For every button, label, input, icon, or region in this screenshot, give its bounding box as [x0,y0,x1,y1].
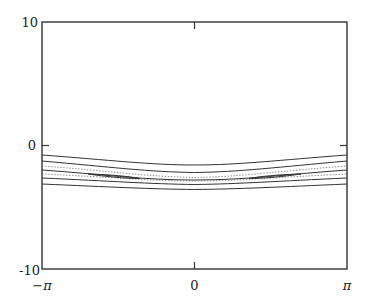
curve-2 [42,161,347,173]
x-tick-label-mid: 0 [190,278,198,293]
y-tick-label-bottom: -10 [19,263,40,278]
curves-group [42,155,347,190]
phase-portrait-chart: 10 0 -10 −π 0 π [0,0,367,303]
separatrix-dotted-upper [42,166,347,178]
curve-3 [42,170,347,180]
y-tick-label-top: 10 [21,15,38,30]
x-tick-label-right: π [342,278,352,293]
plot-frame [42,22,347,269]
x-tick-label-left: −π [32,278,52,293]
y-tick-label-mid: 0 [28,138,36,153]
curve-4 [42,178,347,185]
curve-1 [42,155,347,165]
